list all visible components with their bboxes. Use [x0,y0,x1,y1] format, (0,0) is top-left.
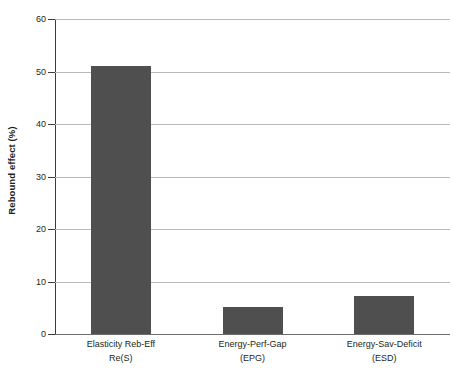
y-axis-tick [48,124,55,125]
y-axis-tick [48,282,55,283]
bar[interactable] [354,296,414,334]
y-axis-tick-label: 20 [2,224,46,234]
x-axis-category-label-line2: (EPG) [187,352,319,366]
x-axis-category-label-line1: Energy-Sav-Deficit [318,338,450,352]
y-axis-tick [48,19,55,20]
x-axis-category-labels: Elasticity Reb-EffRe(S)Energy-Perf-Gap(E… [55,338,450,380]
axis-baseline [55,334,450,335]
y-axis-tick [48,334,55,335]
y-axis-tick-label: 10 [2,277,46,287]
x-axis-category-label-line2: Re(S) [55,352,187,366]
y-axis-tick-labels: 0102030405060 [0,0,46,381]
y-axis-tick [48,72,55,73]
bar-chart: Rebound effect (%) 0102030405060 Elastic… [0,0,453,381]
x-axis-category-label: Energy-Perf-Gap(EPG) [187,338,319,365]
bar[interactable] [91,66,151,334]
bar[interactable] [223,307,283,334]
y-axis-tick [48,177,55,178]
y-axis-tick-label: 50 [2,67,46,77]
y-axis-tick [48,229,55,230]
x-axis-category-label-line2: (ESD) [318,352,450,366]
y-axis-tick-label: 40 [2,119,46,129]
plot-area [55,19,450,334]
x-axis-category-label-line1: Energy-Perf-Gap [187,338,319,352]
x-axis-category-label: Energy-Sav-Deficit(ESD) [318,338,450,365]
gridline [55,19,450,20]
x-axis-category-label-line1: Elasticity Reb-Eff [55,338,187,352]
x-axis-category-label: Elasticity Reb-EffRe(S) [55,338,187,365]
y-axis-tick-label: 60 [2,14,46,24]
y-axis-tick-label: 30 [2,172,46,182]
y-axis-tick-label: 0 [2,329,46,339]
